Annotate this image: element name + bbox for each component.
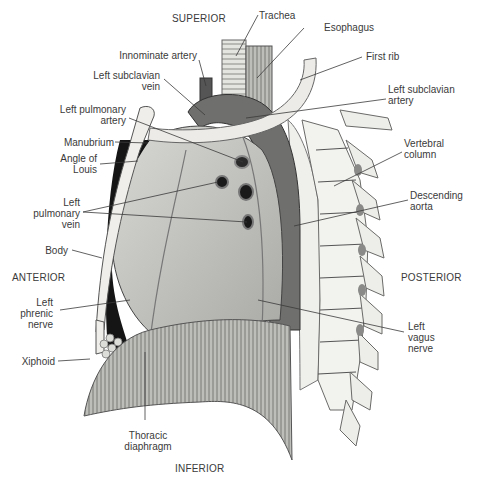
label-descending-aorta: Descending aorta xyxy=(410,190,463,212)
orientation-posterior: POSTERIOR xyxy=(401,272,462,283)
label-manubrium: Manubrium xyxy=(64,137,114,148)
label-body: Body xyxy=(45,245,68,256)
label-angle-of-louis: Angle of Louis xyxy=(60,153,97,175)
label-vertebral-column: Vertebral column xyxy=(404,138,444,160)
mediastinum-illustration xyxy=(0,0,480,484)
label-trachea: Trachea xyxy=(259,10,295,21)
label-left-vagus-nerve: Left vagus nerve xyxy=(408,321,435,354)
vertebral-column-shape xyxy=(288,110,392,446)
xiphoid-shape xyxy=(96,320,104,354)
label-left-phrenic-nerve: Left phrenic nerve xyxy=(20,297,53,330)
label-left-pulmonary-artery: Left pulmonary artery xyxy=(60,104,126,126)
orientation-superior: SUPERIOR xyxy=(172,13,226,24)
label-esophagus: Esophagus xyxy=(324,22,374,33)
orientation-inferior: INFERIOR xyxy=(175,463,224,474)
label-innominate-artery: Innominate artery xyxy=(119,50,197,61)
label-thoracic-diaphragm: Thoracic diaphragm xyxy=(120,430,176,452)
label-left-pulmonary-vein: Left pulmonary vein xyxy=(33,197,80,230)
label-xiphoid: Xiphoid xyxy=(22,356,55,367)
label-first-rib: First rib xyxy=(366,51,399,62)
label-left-subclavian-vein: Left subclavian vein xyxy=(93,70,160,92)
orientation-anterior: ANTERIOR xyxy=(12,272,65,283)
label-left-subclavian-artery: Left subclavian artery xyxy=(388,84,455,106)
